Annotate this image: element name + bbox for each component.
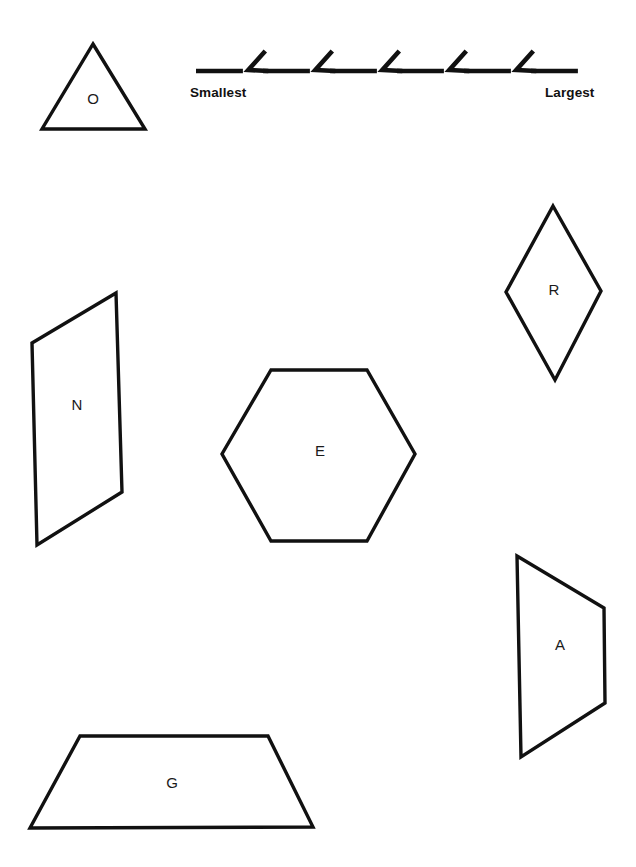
shapes-svg: ONERAG bbox=[0, 0, 636, 867]
chevron-icon bbox=[516, 51, 536, 71]
shape-trapezoid-right[interactable]: A bbox=[517, 556, 605, 757]
shape-outline-o[interactable] bbox=[42, 44, 145, 129]
chevron-icon bbox=[382, 51, 402, 71]
shape-rhombus[interactable]: R bbox=[506, 206, 601, 380]
chevron-icon bbox=[248, 51, 268, 71]
shape-letter-g: G bbox=[166, 774, 178, 791]
shape-letter-e: E bbox=[315, 442, 325, 459]
scale-label-largest: Largest bbox=[545, 85, 594, 100]
shape-outline-n[interactable] bbox=[32, 293, 122, 545]
size-scale-group bbox=[196, 51, 578, 71]
scale-label-smallest: Smallest bbox=[190, 85, 246, 100]
worksheet-canvas: ONERAG Smallest Largest bbox=[0, 0, 636, 867]
shape-letter-a: A bbox=[555, 636, 565, 653]
shape-parallelogram[interactable]: N bbox=[32, 293, 122, 545]
chevron-icon bbox=[449, 51, 469, 71]
shape-letter-r: R bbox=[549, 281, 560, 298]
shape-outline-a[interactable] bbox=[517, 556, 605, 757]
shapes-group: ONERAG bbox=[30, 44, 605, 828]
shape-trapezoid-bottom[interactable]: G bbox=[30, 736, 313, 828]
chevron-icon bbox=[315, 51, 335, 71]
shape-hexagon[interactable]: E bbox=[222, 370, 415, 541]
shape-letter-n: N bbox=[72, 396, 83, 413]
scale-chevrons bbox=[248, 51, 536, 71]
shape-triangle[interactable]: O bbox=[42, 44, 145, 129]
shape-letter-o: O bbox=[87, 90, 99, 107]
